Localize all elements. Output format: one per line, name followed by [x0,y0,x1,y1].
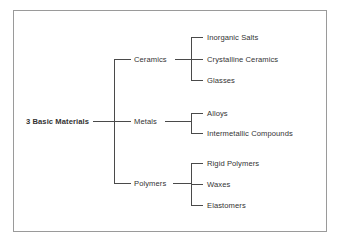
connector-metals-stub [165,121,191,122]
connector-ceramics-child-3 [191,80,203,81]
connector-root-stub [93,121,114,122]
node-branch-ceramics: Ceramics [134,55,167,64]
connector-polymers-stub [173,183,191,184]
connector-trunk-to-metals [114,121,131,122]
node-leaf-elastomers: Elastomers [207,201,246,210]
connector-ceramics-child-2 [191,59,203,60]
connector-metals-child-2 [191,133,203,134]
node-leaf-rigid-polymers: Rigid Polymers [207,159,259,168]
node-leaf-intermetallic-compounds: Intermetallic Compounds [207,129,293,138]
connector-trunk-to-ceramics [114,59,131,60]
connector-polymers-child-3 [191,205,203,206]
connector-polymers-child-2 [191,184,203,185]
connector-trunk-to-polymers [114,183,131,184]
connector-polymers-child-1 [191,163,203,164]
connector-metals-child-1 [191,113,203,114]
node-leaf-waxes: Waxes [207,180,230,189]
diagram-canvas: 3 Basic Materials Ceramics Inorganic Sal… [0,0,341,249]
connector-ceramics-child-1 [191,37,203,38]
node-leaf-inorganic-salts: Inorganic Salts [207,33,258,42]
node-leaf-alloys: Alloys [207,109,228,118]
node-root-3-basic-materials: 3 Basic Materials [26,117,89,126]
node-leaf-glasses: Glasses [207,76,235,85]
node-branch-metals: Metals [134,117,157,126]
connector-metals-bracket [191,113,192,134]
connector-ceramics-stub [175,59,191,60]
node-branch-polymers: Polymers [134,179,166,188]
node-leaf-crystalline-ceramics: Crystalline Ceramics [207,55,278,64]
